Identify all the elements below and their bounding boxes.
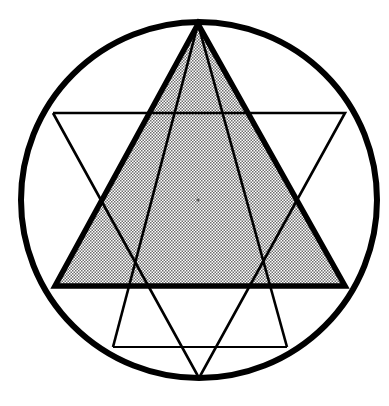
center-dot: [196, 198, 199, 201]
geometry-diagram: [0, 0, 389, 406]
figure-canvas: [0, 0, 389, 406]
